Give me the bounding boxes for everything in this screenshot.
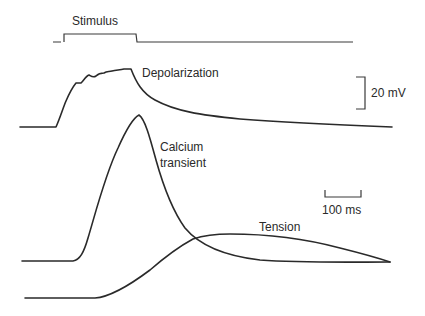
calcium-label-line1: Calcium: [160, 140, 203, 154]
calcium-label-line2: transient: [160, 156, 206, 170]
tension-trace: [25, 234, 390, 298]
voltage-scale-label: 20 mV: [371, 86, 406, 100]
calcium-transient-trace: [22, 115, 390, 262]
depolarization-label: Depolarization: [142, 66, 219, 80]
diagram-canvas: [0, 0, 425, 316]
tension-label: Tension: [259, 220, 300, 234]
stimulus-trace: [53, 34, 353, 42]
time-scale-label: 100 ms: [322, 203, 361, 217]
stimulus-label: Stimulus: [72, 14, 118, 28]
time-scale-bar: [325, 190, 361, 197]
voltage-scale-bar: [356, 77, 365, 109]
